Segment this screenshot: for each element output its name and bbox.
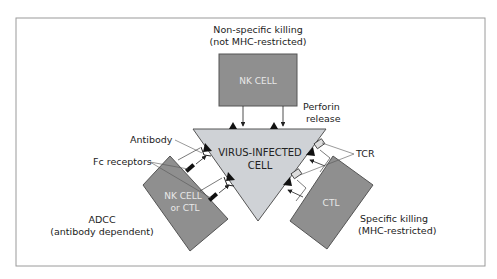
- specific-caption-line1: Specific killing: [360, 213, 428, 224]
- fc-receptor-1: [185, 163, 195, 173]
- left-cell-label-line1: NK CELL: [164, 191, 202, 201]
- tcr-leader-1: [322, 143, 354, 154]
- perforin-label-line1: Perforin: [303, 101, 340, 112]
- ctl-label: CTL: [323, 198, 340, 208]
- left-link-1: [178, 148, 200, 160]
- antibody-label: Antibody: [130, 134, 173, 145]
- nk-cell-label: NK CELL: [239, 76, 277, 86]
- nonspecific-caption-line1: Non-specific killing: [213, 24, 302, 35]
- nonspecific-caption-line2: (not MHC-restricted): [210, 36, 307, 47]
- nk-cell-top: NK CELL: [219, 54, 297, 106]
- antibody-leader: [175, 140, 202, 153]
- right-link-2: [296, 180, 306, 201]
- adcc-caption-line2: (antibody dependent): [50, 226, 154, 237]
- left-cell-label-line2: or CTL: [171, 203, 200, 213]
- adcc-caption-line1: ADCC: [88, 214, 115, 225]
- target-label-line1: VIRUS-INFECTED: [218, 147, 302, 158]
- mhc-marker-top-1: [229, 122, 237, 129]
- left-arrow-2: [219, 185, 229, 193]
- tcr-label: TCR: [355, 148, 375, 159]
- perforin-label-line2: release: [306, 113, 341, 124]
- left-arrow-1: [196, 156, 206, 164]
- right-arrow-1: [310, 160, 325, 166]
- target-label-line2: CELL: [248, 160, 273, 171]
- diagram-canvas: NK CELL Non-specific killing (not MHC-re…: [0, 0, 497, 279]
- left-link-2: [200, 178, 222, 191]
- right-arrow-2: [288, 190, 303, 197]
- specific-caption-line2: (MHC-restricted): [358, 225, 436, 236]
- fc-receptors-label: Fc receptors: [93, 156, 152, 167]
- mhc-marker-top-2: [270, 122, 278, 129]
